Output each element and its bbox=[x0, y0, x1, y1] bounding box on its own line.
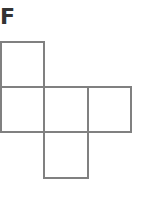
figure-label: F bbox=[0, 6, 15, 28]
square-middle-right bbox=[87, 86, 132, 133]
square-middle-left bbox=[0, 86, 45, 133]
square-bottom bbox=[43, 131, 89, 179]
square-middle-center bbox=[43, 86, 89, 133]
square-top bbox=[0, 41, 45, 88]
